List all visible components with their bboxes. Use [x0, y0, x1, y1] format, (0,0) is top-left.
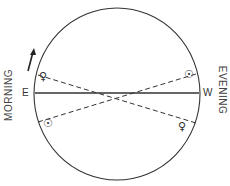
venus-symbol-lower-right: ♀ [178, 121, 186, 132]
sky-diagram [0, 0, 230, 186]
sun-symbol-lower-left: ☉ [43, 118, 53, 129]
evening-label: EVENING [216, 55, 228, 125]
venus-symbol-upper-left: ♀ [39, 71, 47, 82]
dashed-line-upper-left-to-lower-right [38, 75, 196, 123]
arrow-up-icon [28, 48, 36, 71]
morning-label: MORNING [2, 60, 14, 130]
east-label: E [22, 87, 29, 98]
celestial-circle [34, 8, 200, 180]
dashed-line-lower-left-to-upper-right [38, 74, 196, 122]
sun-symbol-upper-right: ☉ [184, 69, 194, 80]
west-label: W [203, 87, 213, 98]
